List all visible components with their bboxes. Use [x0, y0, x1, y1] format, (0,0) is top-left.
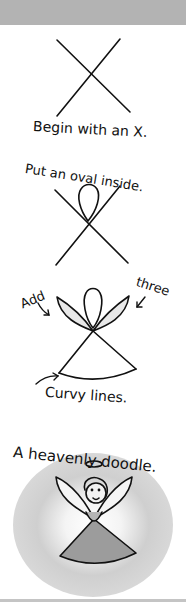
step3-angel-outline	[57, 289, 136, 380]
step3-caption-add: Add	[18, 288, 47, 311]
step3-caption-curvy-lines: Curvy lines.	[45, 384, 128, 406]
doodle-illustration: Begin with an X. Put an oval inside. Add…	[0, 0, 186, 602]
step2-caption: Put an oval inside.	[24, 161, 144, 194]
step3-caption-three: three	[134, 274, 171, 299]
arrow-icon	[36, 297, 145, 384]
step1-x-drawing	[57, 39, 130, 116]
step2-x-oval-drawing	[55, 185, 128, 266]
step1-caption: Begin with an X.	[33, 118, 148, 140]
